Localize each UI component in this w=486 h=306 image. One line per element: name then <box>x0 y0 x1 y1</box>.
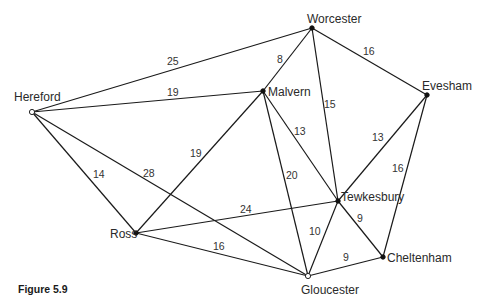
edge-weight-tewkesbury-gloucester: 10 <box>309 225 321 237</box>
edge-weight-malvern-ross: 19 <box>190 147 202 159</box>
edge-weight-ross-tewkesbury: 24 <box>240 203 252 215</box>
edge-weight-worcester-evesham: 16 <box>363 45 375 57</box>
node-hereford-marker <box>29 109 34 114</box>
edge-weight-hereford-gloucester: 28 <box>143 167 155 179</box>
node-labels-layer: HerefordWorcesterMalvernEveshamTewkesbur… <box>14 12 472 297</box>
edge-weight-tewkesbury-cheltenham: 9 <box>357 212 363 224</box>
node-evesham-marker <box>425 93 429 97</box>
node-label-malvern: Malvern <box>268 85 311 99</box>
edge-hereford-ross <box>32 112 136 233</box>
edge-worcester-malvern <box>263 28 312 91</box>
node-label-hereford: Hereford <box>14 90 61 104</box>
edge-tewkesbury-cheltenham <box>338 201 383 257</box>
node-malvern-marker <box>261 89 265 93</box>
edges-layer <box>32 28 427 276</box>
edge-weights-layer: 2519142881516191320131624161099 <box>93 45 404 263</box>
node-label-evesham: Evesham <box>422 79 472 93</box>
edge-weight-evesham-cheltenham: 16 <box>392 162 404 174</box>
edge-weight-gloucester-cheltenham: 9 <box>343 251 349 263</box>
edge-ross-tewkesbury <box>136 201 338 233</box>
edge-evesham-tewkesbury <box>338 95 427 201</box>
node-label-tewkesbury: Tewkesbury <box>341 190 404 204</box>
edge-malvern-gloucester <box>263 91 308 276</box>
edge-hereford-gloucester <box>32 112 308 276</box>
node-label-ross: Ross <box>110 227 137 241</box>
node-label-gloucester: Gloucester <box>301 283 359 297</box>
node-tewkesbury-marker <box>336 199 340 203</box>
node-label-cheltenham: Cheltenham <box>387 251 452 265</box>
node-gloucester-marker <box>305 273 310 278</box>
edge-tewkesbury-gloucester <box>308 201 338 276</box>
edge-weight-worcester-tewkesbury: 15 <box>324 98 336 110</box>
edge-weight-malvern-gloucester: 20 <box>286 169 298 181</box>
edge-weight-malvern-tewkesbury: 13 <box>294 125 306 137</box>
edge-weight-hereford-malvern: 19 <box>167 86 179 98</box>
edge-worcester-evesham <box>312 28 427 95</box>
figure-caption: Figure 5.9 <box>18 283 68 295</box>
edge-weight-hereford-worcester: 25 <box>167 55 179 67</box>
road-network-diagram: 2519142881516191320131624161099 Hereford… <box>0 0 486 306</box>
edge-worcester-tewkesbury <box>312 28 338 201</box>
edge-weight-worcester-malvern: 8 <box>277 53 283 65</box>
node-worcester-marker <box>310 26 314 30</box>
edge-weight-ross-gloucester: 16 <box>213 240 225 252</box>
node-cheltenham-marker <box>381 255 385 259</box>
edge-weight-evesham-tewkesbury: 13 <box>372 131 384 143</box>
edge-weight-hereford-ross: 14 <box>93 168 105 180</box>
node-label-worcester: Worcester <box>307 12 361 26</box>
edge-evesham-cheltenham <box>383 95 427 257</box>
